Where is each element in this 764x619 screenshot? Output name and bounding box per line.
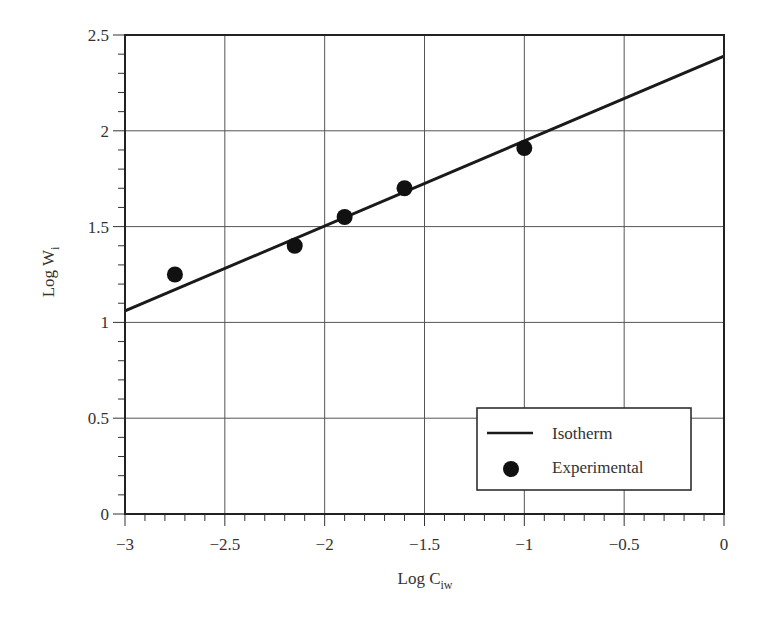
y-tick-labels: 00.511.522.5 — [88, 26, 109, 524]
y-tick-label: 1.5 — [88, 218, 109, 237]
experimental-data-point — [516, 140, 532, 156]
experimental-data-point — [167, 267, 183, 283]
x-tick-label: −3 — [116, 535, 134, 554]
x-tick-labels: −3−2.5−2−1.5−1−0.50 — [116, 535, 728, 554]
legend-box — [477, 408, 691, 490]
experimental-data-point — [397, 180, 413, 196]
y-tick-label: 2 — [101, 122, 110, 141]
y-tick-label: 2.5 — [88, 26, 109, 45]
x-tick-label: −1 — [515, 535, 533, 554]
y-tick-label: 0.5 — [88, 409, 109, 428]
y-axis-label-main: Log W — [39, 249, 58, 297]
x-tick-label: 0 — [720, 535, 729, 554]
x-tick-label: −2.5 — [209, 535, 240, 554]
legend: Isotherm Experimental — [477, 408, 691, 490]
legend-label-experimental: Experimental — [552, 458, 644, 477]
legend-dot-swatch — [503, 461, 519, 477]
x-axis-label-sub: iw — [440, 578, 452, 592]
x-tick-label: −2 — [316, 535, 334, 554]
legend-label-isotherm: Isotherm — [552, 424, 612, 443]
y-axis-label: Log Wi — [39, 246, 62, 297]
y-tick-label: 1 — [101, 313, 110, 332]
x-axis-label-main: Log C — [398, 569, 441, 588]
x-tick-label: −0.5 — [609, 535, 640, 554]
x-axis-label: Log Ciw — [398, 569, 453, 592]
y-tick-label: 0 — [101, 505, 110, 524]
y-axis-label-sub: i — [48, 246, 62, 250]
chart: −3−2.5−2−1.5−1−0.50 00.511.522.5 Log Ciw… — [0, 0, 764, 619]
experimental-data-point — [287, 238, 303, 254]
x-tick-label: −1.5 — [409, 535, 440, 554]
experimental-data-point — [337, 209, 353, 225]
